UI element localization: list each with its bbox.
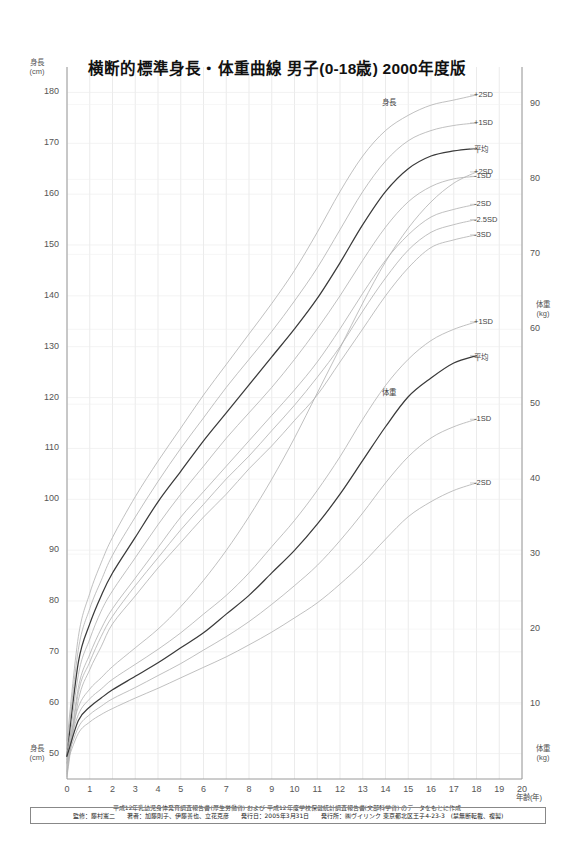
height-sd-label--3SD: -3SD [474, 230, 491, 239]
left-tick-100: 100 [29, 493, 59, 503]
height-sd-label-+1SD: +1SD [474, 118, 493, 127]
x-tick-19: 19 [489, 784, 509, 794]
x-tick-9: 9 [262, 784, 282, 794]
right-tick-80: 80 [530, 173, 560, 183]
weight-sd-label--2SD: -2SD [474, 478, 491, 487]
x-tick-11: 11 [307, 784, 327, 794]
x-tick-8: 8 [239, 784, 259, 794]
right-tick-50: 50 [530, 398, 560, 408]
weight-series-title: 体重 [382, 386, 396, 397]
footer-credit-text: 監修：藤村憲二 著者：加藤則子、伊藤善也、立花克彦 発行日：2005年3月31日… [31, 811, 545, 820]
right-tick-20: 20 [530, 623, 560, 633]
chart-plot-area [0, 0, 574, 864]
left-tick-150: 150 [29, 239, 59, 249]
left-tick-130: 130 [29, 341, 59, 351]
left-tick-60: 60 [29, 697, 59, 707]
x-tick-14: 14 [376, 784, 396, 794]
left-tick-110: 110 [29, 442, 59, 452]
x-tick-4: 4 [148, 784, 168, 794]
x-tick-16: 16 [421, 784, 441, 794]
right-axis-caption-bottom: 体重(kg) [528, 744, 558, 762]
weight-sd-label-+2SD: +2SD [474, 167, 493, 176]
left-tick-160: 160 [29, 188, 59, 198]
right-tick-10: 10 [530, 698, 560, 708]
grid-lines [67, 67, 522, 779]
x-tick-7: 7 [216, 784, 236, 794]
x-tick-2: 2 [103, 784, 123, 794]
left-tick-170: 170 [29, 137, 59, 147]
left-tick-80: 80 [29, 595, 59, 605]
left-tick-50: 50 [29, 748, 59, 758]
x-tick-10: 10 [285, 784, 305, 794]
x-tick-5: 5 [171, 784, 191, 794]
x-tick-20: 20 [512, 784, 532, 794]
right-tick-90: 90 [530, 98, 560, 108]
height-series-title: 身長 [382, 96, 396, 107]
x-tick-18: 18 [467, 784, 487, 794]
left-tick-140: 140 [29, 290, 59, 300]
page-title: 横断的標準身長・体重曲線 男子(0-18歳) 2000年度版 [88, 56, 508, 78]
x-tick-15: 15 [398, 784, 418, 794]
weight-sd-label--1SD: -1SD [474, 414, 491, 423]
height-sd-label-平均: 平均 [474, 143, 488, 154]
x-tick-12: 12 [330, 784, 350, 794]
height-sd-label--2.5SD: -2.5SD [474, 215, 497, 224]
left-tick-180: 180 [29, 86, 59, 96]
x-tick-17: 17 [444, 784, 464, 794]
x-tick-6: 6 [194, 784, 214, 794]
right-axis-caption-top: 体重(kg) [528, 300, 558, 318]
right-tick-40: 40 [530, 473, 560, 483]
left-tick-90: 90 [29, 544, 59, 554]
right-tick-70: 70 [530, 248, 560, 258]
growth-chart: 横断的標準身長・体重曲線 男子(0-18歳) 2000年度版 身長(cm) 身長… [0, 0, 574, 864]
x-tick-1: 1 [80, 784, 100, 794]
height-sd-label-+2SD: +2SD [474, 90, 493, 99]
right-tick-30: 30 [530, 548, 560, 558]
left-tick-70: 70 [29, 646, 59, 656]
left-tick-120: 120 [29, 392, 59, 402]
right-tick-60: 60 [530, 323, 560, 333]
x-tick-0: 0 [57, 784, 77, 794]
weight-sd-label-+1SD: +1SD [474, 317, 493, 326]
weight-sd-label-平均: 平均 [474, 351, 488, 362]
x-tick-13: 13 [353, 784, 373, 794]
footer-credit-box: 監修：藤村憲二 著者：加藤則子、伊藤善也、立花克彦 発行日：2005年3月31日… [30, 807, 546, 824]
x-tick-3: 3 [125, 784, 145, 794]
height-sd-label--2SD: -2SD [474, 199, 491, 208]
left-axis-caption-top: 身長(cm) [22, 58, 52, 76]
